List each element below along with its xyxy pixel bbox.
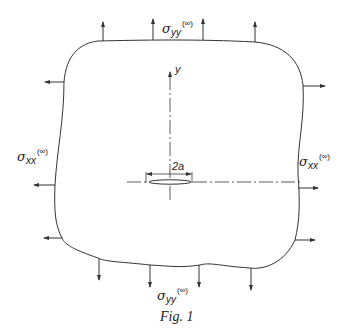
y-axis-label: y — [175, 63, 181, 75]
left-stress-label: σxx(∞) — [17, 147, 48, 165]
bottom-stress-label: σyy(∞) — [157, 286, 188, 304]
crack-length-label: 2a — [172, 160, 184, 172]
crack — [149, 180, 191, 184]
figure-caption: Fig. 1 — [160, 309, 193, 325]
top-stress-label: σyy(∞) — [162, 19, 193, 37]
right-stress-label: σxx(∞) — [299, 152, 330, 170]
